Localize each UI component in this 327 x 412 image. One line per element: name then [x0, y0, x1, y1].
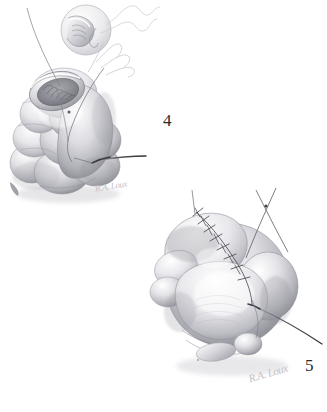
suture-knot — [68, 111, 71, 114]
inferior-lobule — [234, 333, 262, 355]
shading-wash — [164, 292, 196, 332]
illustration-plate: 4 5 R.A. Loux R.A. Loux — [0, 0, 327, 412]
figure-4-inset-detail-circle — [61, 5, 111, 55]
figure-5-number-label: 5 — [305, 357, 314, 374]
figure-4-number-label: 4 — [163, 112, 172, 129]
surgical-illustration-artwork — [0, 0, 327, 412]
paper-background — [0, 0, 327, 412]
shading-wash — [12, 162, 60, 190]
thread-knot — [264, 204, 267, 207]
shading-wash — [92, 92, 116, 144]
stipple-mark — [197, 359, 199, 361]
